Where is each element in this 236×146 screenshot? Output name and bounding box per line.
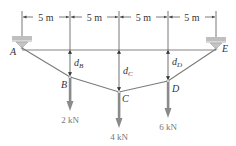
dimension-label-ab: 5 m	[38, 12, 54, 23]
sag-label-b: dB	[74, 57, 84, 70]
sag-label-c: dC	[123, 65, 133, 78]
label-a: A	[9, 46, 17, 57]
label-b: B	[61, 79, 67, 90]
load-label-c: 4 kN	[110, 132, 128, 142]
load-label-d: 6 kN	[159, 122, 177, 132]
joint-d	[167, 80, 170, 83]
load-label-b: 2 kN	[61, 115, 79, 125]
cable-diagram: 5 m 5 m 5 m 5 m dB dC dD A E B C	[0, 0, 236, 146]
joint-b	[69, 76, 72, 79]
label-e: E	[221, 43, 228, 54]
dimension-label-de: 5 m	[184, 12, 200, 23]
label-d: D	[171, 83, 180, 94]
sag-label-d: dD	[172, 56, 182, 69]
dimension-label-bc: 5 m	[87, 12, 103, 23]
joint-c	[118, 91, 121, 94]
load-arrow-b-icon	[67, 78, 74, 111]
dimension-label-cd: 5 m	[136, 12, 152, 23]
label-c: C	[122, 93, 129, 104]
load-arrow-d-icon	[165, 82, 172, 118]
